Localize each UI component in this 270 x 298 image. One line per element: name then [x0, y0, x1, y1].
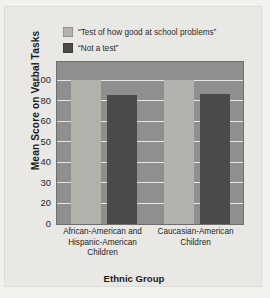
category-label-line: Children	[56, 248, 149, 259]
category-label-line: African-American and	[56, 227, 149, 238]
legend-swatch-dark	[63, 43, 73, 53]
category-label-group-2: Caucasian-AmericanChildren	[149, 227, 242, 248]
chart-card: “Test of how good at school problems” “N…	[4, 6, 262, 287]
y-tick-label: 100	[7, 74, 51, 85]
legend-item-not-a-test: “Not a test”	[63, 41, 261, 55]
chart-legend: “Test of how good at school problems” “N…	[63, 25, 261, 55]
bar-light-group-2	[164, 80, 194, 224]
figure: “Test of how good at school problems” “N…	[0, 0, 270, 298]
legend-label-not-a-test: “Not a test”	[78, 44, 119, 53]
y-tick-label: 30	[7, 176, 51, 187]
category-label-group-1: African-American andHispanic-AmericanChi…	[56, 227, 149, 259]
category-label-line: Caucasian-American	[149, 227, 242, 238]
bar-dark-group-1	[107, 95, 137, 224]
x-axis-title: Ethnic Group	[5, 273, 263, 284]
x-axis-category-labels: African-American andHispanic-AmericanChi…	[56, 227, 244, 271]
y-axis-ticks: 0203040506080100	[5, 61, 54, 225]
category-label-line: Hispanic-American	[56, 238, 149, 249]
y-tick-label: 0	[7, 218, 51, 229]
bar-light-group-1	[71, 80, 101, 224]
bar-dark-group-2	[200, 94, 230, 224]
legend-item-test: “Test of how good at school problems”	[63, 25, 261, 39]
y-tick-label: 50	[7, 135, 51, 146]
y-tick-label: 20	[7, 197, 51, 208]
y-tick-label: 80	[7, 94, 51, 105]
plot-area	[56, 61, 244, 225]
legend-swatch-light	[63, 27, 73, 37]
y-tick-label: 60	[7, 115, 51, 126]
legend-label-test: “Test of how good at school problems”	[78, 28, 216, 37]
y-tick-label: 40	[7, 156, 51, 167]
category-label-line: Children	[149, 238, 242, 249]
